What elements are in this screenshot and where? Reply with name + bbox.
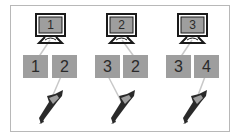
number-box: 2: [52, 55, 77, 78]
number-box: 4: [194, 55, 219, 78]
bird-icon: [35, 88, 65, 126]
number-box: 3: [95, 55, 120, 78]
monitor-label: 2: [106, 18, 137, 32]
number-box: 1: [23, 55, 48, 78]
monitor-icon: 2: [106, 13, 137, 45]
bird-icon: [179, 88, 209, 126]
monitor-icon: 1: [35, 13, 66, 45]
monitor-label: 1: [35, 18, 66, 32]
bird-icon: [107, 88, 137, 126]
number-box: 3: [166, 55, 191, 78]
monitor-icon: 3: [177, 13, 208, 45]
monitor-label: 3: [177, 18, 208, 32]
number-box: 2: [123, 55, 148, 78]
